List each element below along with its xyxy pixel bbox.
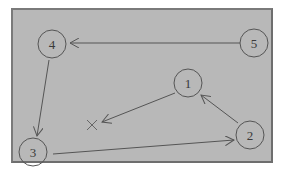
- node-5: 5: [240, 29, 268, 57]
- edge-1-to-x: [102, 93, 175, 122]
- node-2: 2: [236, 121, 264, 149]
- edge-2-to-1: [201, 95, 238, 123]
- node-3-label: 3: [30, 145, 37, 160]
- node-4: 4: [38, 30, 66, 58]
- node-4-label: 4: [49, 37, 56, 52]
- diagram-canvas: 1 2 3 4 5: [0, 0, 292, 188]
- node-3: 3: [19, 138, 47, 166]
- node-5-label: 5: [251, 36, 258, 51]
- node-2-label: 2: [247, 128, 254, 143]
- edge-3-to-2: [53, 140, 234, 154]
- node-1: 1: [174, 69, 202, 97]
- edge-4-to-3: [37, 60, 49, 136]
- node-1-label: 1: [185, 76, 192, 91]
- cross-marker-icon: [87, 120, 97, 130]
